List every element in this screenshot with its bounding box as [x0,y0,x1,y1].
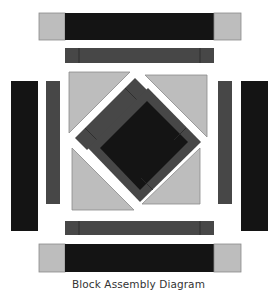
top-inner-strip [65,48,214,63]
left-outer-bar [11,81,38,231]
bottom-outer-strip [39,244,241,272]
diagram-caption: Block Assembly Diagram [0,278,277,290]
bottom-inner-strip [65,221,214,235]
block-assembly-diagram [0,0,277,293]
right-inner-bar [218,81,232,204]
top-outer-strip [39,13,241,40]
right-outer-bar [241,81,268,231]
left-inner-bar [46,81,60,204]
